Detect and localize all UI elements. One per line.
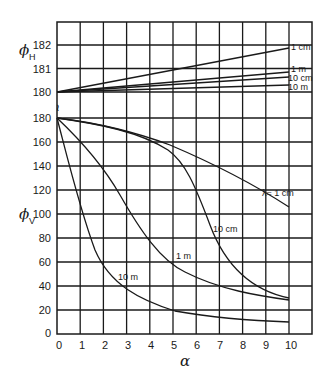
xtick-0: 0 xyxy=(56,339,62,351)
bottom-y-ticks: 180 160 140 120 100 80 60 40 20 0 xyxy=(33,112,51,339)
xtick-2: 2 xyxy=(102,339,108,351)
xtick-5: 5 xyxy=(171,339,177,351)
label-phiV-1m: 1 m xyxy=(176,251,191,261)
label-phiH-1cm: 1 cm xyxy=(291,42,311,52)
xtick-4: 4 xyxy=(148,339,154,351)
xtick-1: 1 xyxy=(79,339,85,351)
xtick-9: 9 xyxy=(263,339,269,351)
x-ticks: 0 1 2 3 4 5 6 7 8 9 10 xyxy=(56,339,297,351)
axis-break-mark: ≀ xyxy=(56,102,60,113)
ytick-181: 181 xyxy=(33,63,51,75)
xtick-10: 10 xyxy=(285,339,297,351)
grid-horizontal-bottom xyxy=(57,118,312,310)
xtick-3: 3 xyxy=(125,339,131,351)
ytick-160: 160 xyxy=(33,136,51,148)
ytick-40: 40 xyxy=(39,280,51,292)
label-phiV-10cm: 10 cm xyxy=(213,224,238,234)
chart-figure: 1 cm 1 m 10 cm 10 m λ= 1 cm 10 cm 1 m 10… xyxy=(0,0,330,373)
phiV-symbol: ϕ xyxy=(19,205,29,223)
ytick-100: 100 xyxy=(33,208,51,220)
top-series-labels: 1 cm 1 m 10 cm 10 m xyxy=(288,42,313,92)
phiH-symbol: ϕ xyxy=(19,41,29,59)
ytick-60: 60 xyxy=(39,256,51,268)
xtick-8: 8 xyxy=(240,339,246,351)
label-phiH-10m: 10 m xyxy=(288,82,308,92)
label-phiV-1cm: λ= 1 cm xyxy=(262,188,294,198)
ytick-182: 182 xyxy=(33,39,51,51)
x-axis-title: α xyxy=(180,352,190,370)
ytick-120: 120 xyxy=(33,184,51,196)
ytick-140: 140 xyxy=(33,160,51,172)
xtick-6: 6 xyxy=(194,339,200,351)
xtick-7: 7 xyxy=(217,339,223,351)
bottom-series-labels: λ= 1 cm 10 cm 1 m 10 m xyxy=(118,188,294,282)
ytick-180-top: 180 xyxy=(33,86,51,98)
ytick-80: 80 xyxy=(39,232,51,244)
label-phiV-10m: 10 m xyxy=(118,272,138,282)
ytick-180: 180 xyxy=(33,112,51,124)
top-y-ticks: 182 181 180 xyxy=(33,39,51,98)
ytick-0: 0 xyxy=(45,327,51,339)
phiH-subscript: H xyxy=(29,52,36,62)
phiV-subscript: V xyxy=(29,216,35,226)
ytick-20: 20 xyxy=(39,304,51,316)
